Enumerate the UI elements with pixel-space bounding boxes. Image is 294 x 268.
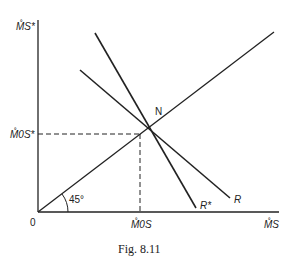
line-label-r: R	[234, 194, 241, 205]
y-tick-label: M̊0S*	[10, 127, 36, 140]
diagram: M̊S* M̊0S* 0 M̊0S M̊S 45° N R* R Fig. 8.…	[0, 0, 294, 268]
y-axis-label: M̊S*	[16, 19, 36, 32]
x-tick-label: M̊0S	[131, 217, 152, 230]
origin-label: 0	[30, 217, 36, 228]
line-label-n: N	[155, 106, 162, 117]
figure-caption: Fig. 8.11	[118, 242, 161, 256]
r-star-line	[95, 33, 196, 208]
angle-arc	[62, 194, 68, 212]
line-label-r-star: R*	[200, 200, 212, 211]
x-axis-label: M̊S	[264, 217, 279, 230]
forty-five-degree-line	[38, 32, 274, 212]
angle-label: 45°	[69, 194, 84, 205]
